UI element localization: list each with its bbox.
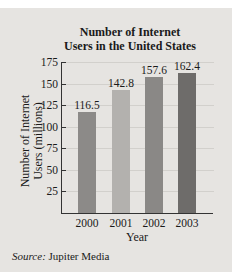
y-tick [62, 170, 66, 171]
bar-value-label: 116.5 [67, 99, 107, 111]
y-tick-label: 100 [30, 121, 58, 133]
x-axis [61, 213, 213, 214]
bar-2000 [78, 112, 96, 213]
source-prefix: Source: [12, 250, 46, 262]
source-note: Source: Jupiter Media [12, 250, 109, 262]
y-tick [62, 191, 66, 192]
bar-2002 [145, 77, 163, 213]
title-line-2: Users in the United States [40, 39, 220, 53]
x-tick-label: 2003 [167, 217, 207, 229]
y-tick [62, 62, 66, 63]
y-tick-label: 25 [30, 185, 58, 197]
y-tick [62, 84, 66, 85]
y-tick [62, 105, 66, 106]
bar-2003 [178, 73, 196, 213]
y-tick-label: 75 [30, 142, 58, 154]
chart-title: Number of Internet Users in the United S… [40, 25, 220, 53]
title-line-1: Number of Internet [40, 25, 220, 39]
y-tick-label: 150 [30, 78, 58, 90]
y-tick-label: 50 [30, 164, 58, 176]
bar-value-label: 142.8 [101, 77, 141, 89]
source-text: Jupiter Media [46, 250, 110, 262]
y-tick-label: 175 [30, 56, 58, 68]
y-tick-label: 125 [30, 99, 58, 111]
bar-value-label: 162.4 [167, 60, 207, 72]
x-axis-label: Year [117, 230, 157, 245]
y-tick [62, 127, 66, 128]
bar-2001 [112, 90, 130, 213]
y-tick [62, 148, 66, 149]
y-axis [61, 62, 62, 213]
